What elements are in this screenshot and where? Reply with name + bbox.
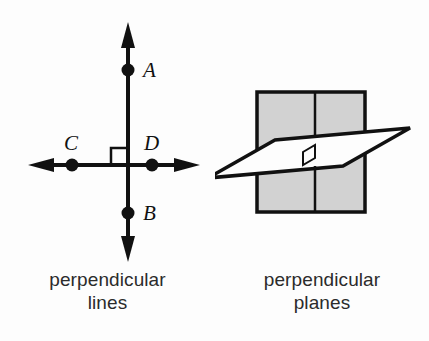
arrowhead-right-icon [174,158,200,172]
perpendicular-lines-panel: A B C D perpendicular lines [0,0,215,341]
caption-perpendicular-planes: perpendicular planes [215,268,429,314]
perpendicular-planes-drawing [215,0,429,265]
caption-perpendicular-lines: perpendicular lines [0,268,215,314]
geometry-figure: A B C D perpendicular lines perpendicula… [0,0,429,341]
point-a-dot [122,64,135,77]
point-d-label: D [143,131,159,155]
point-b-label: B [143,201,156,225]
point-b-dot [122,207,135,220]
perpendicular-planes-panel: perpendicular planes [215,0,429,341]
caption-lines-line1: perpendicular [49,269,165,290]
point-d-dot [146,159,159,172]
point-c-dot [66,159,79,172]
point-c-label: C [64,131,79,155]
caption-planes-line2: planes [215,291,429,314]
point-a-label: A [141,58,156,82]
caption-planes-line1: perpendicular [264,269,380,290]
perpendicular-lines-drawing: A B C D [0,0,215,265]
caption-lines-line2: lines [0,291,215,314]
arrowhead-up-icon [121,22,135,48]
arrowhead-down-icon [121,236,135,262]
right-angle-marker [111,148,128,165]
arrowhead-left-icon [28,158,54,172]
